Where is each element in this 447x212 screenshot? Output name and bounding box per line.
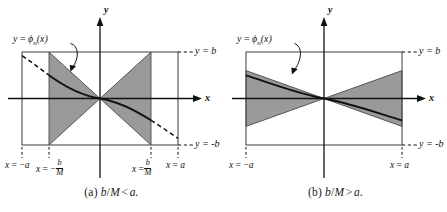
curve-label-b-y: y bbox=[237, 33, 241, 44]
tick-num: a bbox=[404, 160, 409, 170]
curve-label-b-arg: (x) bbox=[261, 33, 272, 44]
tick-num: a bbox=[180, 160, 185, 170]
caption-b-label: (b) bbox=[308, 186, 322, 198]
figure-root: y x y = ϕn(x) y = b y = -b x = −a x = −b… bbox=[0, 0, 447, 212]
tick-eq: = bbox=[236, 160, 241, 170]
x-tick-label-plus-a-a: x = a bbox=[166, 161, 185, 171]
panel-a: y x y = ϕn(x) y = b y = -b x = −a x = −b… bbox=[0, 0, 223, 212]
curve-label-a-eq: = bbox=[20, 33, 26, 44]
y-equals-b-label-a: y = b bbox=[195, 46, 216, 56]
tick-eq: = bbox=[397, 160, 402, 170]
curve-label-a: y = ϕn(x) bbox=[13, 34, 48, 47]
curve-label-b-eq: = bbox=[244, 33, 250, 44]
curve-label-b: y = ϕn(x) bbox=[237, 34, 272, 47]
tick-den: M bbox=[144, 169, 151, 178]
tick-sign: − bbox=[50, 164, 55, 174]
tick-lhs: x bbox=[229, 160, 233, 170]
tick-eq: = bbox=[43, 164, 48, 174]
panel-b-caption: (b) b/M>a. bbox=[224, 186, 447, 198]
caption-b-rhs: a. bbox=[354, 186, 363, 198]
curve-label-a-y: y bbox=[13, 33, 17, 44]
tick-fraction: bM bbox=[144, 159, 151, 178]
panel-b: y x y = ϕn(x) y = b y = -b x = −a x = a … bbox=[224, 0, 447, 212]
tick-num: a bbox=[249, 160, 254, 170]
caption-a-label: (a) bbox=[84, 186, 97, 198]
y-equals-minus-b-label-b: y = -b bbox=[419, 139, 444, 149]
tick-num: a bbox=[25, 160, 30, 170]
x-axis-label-b: x bbox=[429, 92, 434, 103]
tick-lhs: x bbox=[390, 160, 394, 170]
tick-lhs: x bbox=[166, 160, 170, 170]
x-axis-label-a: x bbox=[205, 92, 210, 103]
tick-fraction: bM bbox=[56, 159, 63, 178]
x-tick-label-minus-a-b: x = −a bbox=[229, 161, 253, 171]
tick-eq: = bbox=[12, 160, 17, 170]
curve-label-a-arg: (x) bbox=[37, 33, 48, 44]
caption-a-rhs: a. bbox=[130, 186, 139, 198]
y-axis-label-b: y bbox=[328, 4, 332, 15]
y-equals-minus-b-label-a: y = -b bbox=[195, 139, 220, 149]
caption-a-den: M bbox=[110, 186, 120, 198]
tick-lhs: x bbox=[36, 164, 40, 174]
y-equals-b-label-b: y = b bbox=[419, 46, 440, 56]
tick-eq: = bbox=[173, 160, 178, 170]
x-tick-label-minus-a-a: x = −a bbox=[5, 161, 29, 171]
tick-den: M bbox=[56, 169, 63, 178]
tick-lhs: x bbox=[5, 160, 9, 170]
tick-lhs: x bbox=[132, 164, 136, 174]
caption-a-rel: < bbox=[120, 186, 130, 198]
panel-b-plot bbox=[224, 0, 447, 212]
phi-n-label-leader-b bbox=[291, 44, 300, 75]
panel-a-caption: (a) b/M<a. bbox=[0, 186, 223, 198]
x-tick-label-plus-a-b: x = a bbox=[390, 161, 409, 171]
phi-n-label-leader-a bbox=[70, 44, 78, 72]
caption-b-rel: > bbox=[344, 186, 354, 198]
panel-a-plot bbox=[0, 0, 223, 212]
y-axis-label-a: y bbox=[104, 4, 108, 15]
x-tick-label-minus-b-over-M-a: x = −bM bbox=[36, 159, 64, 178]
caption-b-den: M bbox=[334, 186, 344, 198]
x-tick-label-plus-b-over-M-a: x =bM bbox=[132, 159, 152, 178]
